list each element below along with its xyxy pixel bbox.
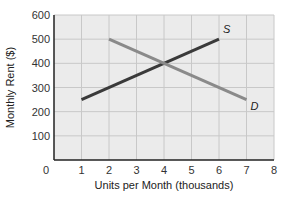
y-tick-label: 600 <box>32 9 50 21</box>
x-tick-label: 2 <box>106 164 112 176</box>
y-tick-label: 400 <box>32 57 50 69</box>
supply-demand-chart: 100200300400500600 012345678 SD Units pe… <box>0 0 288 203</box>
x-tick-label: 0 <box>43 164 49 176</box>
x-tick-label: 6 <box>216 164 222 176</box>
y-tick-label: 300 <box>32 82 50 94</box>
x-tick-label: 3 <box>133 164 139 176</box>
x-tick-label: 1 <box>78 164 84 176</box>
y-tick-label: 200 <box>32 106 50 118</box>
y-axis-label: Monthly Rent ($) <box>4 47 16 128</box>
x-tick-label: 8 <box>271 164 277 176</box>
x-tick-label: 5 <box>188 164 194 176</box>
x-axis-label: Units per Month (thousands) <box>95 179 234 191</box>
x-tick-label: 7 <box>243 164 249 176</box>
curve-label-d: D <box>251 100 259 112</box>
curve-label-s: S <box>223 23 231 35</box>
x-axis-ticks: 012345678 <box>43 164 277 176</box>
y-tick-label: 100 <box>32 130 50 142</box>
y-tick-label: 500 <box>32 33 50 45</box>
x-tick-label: 4 <box>161 164 167 176</box>
y-axis-ticks: 100200300400500600 <box>32 9 50 142</box>
